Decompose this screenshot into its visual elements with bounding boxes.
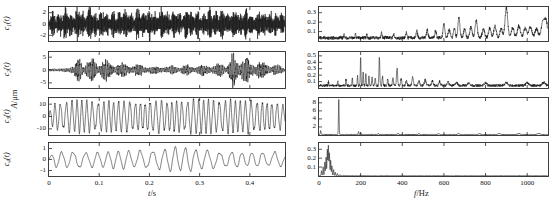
c1-spectrum-ytick: 0.1	[294, 27, 316, 35]
c3-spectrum-ytick: 4	[294, 114, 316, 122]
c1-time-ytick: 0	[22, 20, 46, 28]
c4-time-ytick: 1	[22, 144, 46, 152]
time-xtick: 0.3	[186, 179, 214, 187]
frequency-xtick: 0	[303, 179, 335, 187]
c4-spectrum-plot	[318, 142, 549, 177]
time-axis-title: t/s	[148, 188, 156, 198]
c3-time-ytick: 0	[22, 112, 46, 120]
c2-time-plot	[48, 51, 286, 89]
c1-time-ytick: 2	[22, 8, 46, 16]
c3-time-plot	[48, 97, 286, 136]
c4-time-ytick: 0	[22, 155, 46, 163]
figure-panel-grid: A/μm t/s f/Hz 20-2c1(t)50-5c2(t)100-10c3…	[0, 0, 556, 204]
c2-spectrum-plot	[318, 51, 549, 89]
c3-time-axis-label: c3(t)	[2, 101, 13, 131]
frequency-axis-title: f/Hz	[414, 188, 429, 198]
frequency-xtick: 200	[345, 179, 377, 187]
c3-time-ytick: -10	[22, 124, 46, 132]
c1-spectrum-ytick: 0.3	[294, 8, 316, 16]
c1-spectrum-plot	[318, 6, 549, 42]
frequency-xtick: 1000	[511, 179, 543, 187]
time-xtick: 0.2	[135, 179, 163, 187]
c1-time-ytick: -2	[22, 31, 46, 39]
c3-spectrum-ytick: 8	[294, 98, 316, 106]
frequency-xtick: 400	[386, 179, 418, 187]
frequency-xtick: 800	[470, 179, 502, 187]
c2-time-axis-label: c2(t)	[2, 54, 13, 84]
c3-spectrum-plot	[318, 97, 549, 136]
c3-spectrum-ytick: 2	[294, 122, 316, 130]
c1-time-plot	[48, 6, 286, 42]
c2-time-ytick: 0	[22, 66, 46, 74]
time-xtick: 0	[35, 179, 63, 187]
c3-spectrum-ytick: 6	[294, 106, 316, 114]
c4-spectrum-ytick: 0.2	[294, 154, 316, 162]
time-xtick: 0.4	[236, 179, 264, 187]
c3-time-ytick: 10	[22, 100, 46, 108]
c2-time-ytick: 5	[22, 53, 46, 61]
frequency-xtick: 600	[428, 179, 460, 187]
c4-spectrum-ytick: 0.3	[294, 145, 316, 153]
c1-time-axis-label: c1(t)	[2, 8, 13, 38]
c4-time-plot	[48, 142, 286, 177]
time-xtick: 0.1	[85, 179, 113, 187]
c4-time-ytick: -1	[22, 166, 46, 174]
c2-time-ytick: -5	[22, 78, 46, 86]
c1-spectrum-ytick: 0.2	[294, 18, 316, 26]
c4-spectrum-ytick: 0.1	[294, 163, 316, 171]
c2-spectrum-ytick: 0.1	[294, 77, 316, 85]
c4-time-axis-label: c4(t)	[2, 144, 13, 174]
